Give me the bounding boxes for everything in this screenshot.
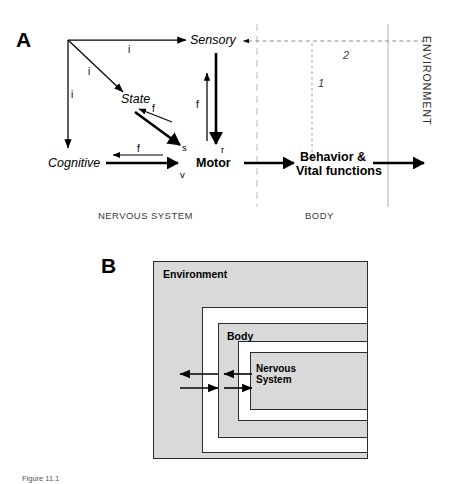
panel-b-graphics — [0, 0, 450, 484]
panel-b-label-nervous-system: Nervous System — [256, 363, 316, 385]
panel-b-label-body: Body — [227, 331, 253, 342]
panel-b-ns-line1: Nervous — [256, 363, 296, 374]
figure-root: A — [0, 0, 450, 484]
panel-b-ns-line2: System — [256, 374, 292, 385]
figure-caption: Figure 11.1 — [22, 474, 59, 483]
panel-b-label-environment: Environment — [163, 269, 227, 280]
